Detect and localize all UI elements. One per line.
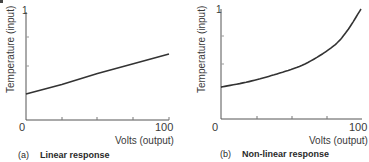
y-axis-label: Temperature (input) — [196, 6, 207, 93]
figure-caption: (a)Linear response — [18, 150, 110, 160]
y-top-label: 1 — [216, 4, 222, 15]
y-axis-label: Temperature (input) — [5, 6, 16, 93]
linear-response-line — [26, 54, 169, 94]
caption-tag: (a) — [18, 150, 40, 160]
caption-title: Linear response — [40, 150, 110, 160]
x-axis-label: Volts (output) — [115, 135, 174, 146]
x-max-label: 100 — [349, 121, 367, 133]
x-min-label: 0 — [19, 121, 25, 133]
chart-non-linear-response: 1 Temperature (input) 0 100 Volts (outpu… — [185, 0, 369, 162]
chart-linear-response: 1 Temperature (input) 0 100 Volts (outpu… — [0, 0, 185, 162]
caption-title: Non-linear response — [242, 149, 329, 159]
y-top-label: 1 — [22, 5, 28, 16]
x-axis-label: Volts (output) — [309, 135, 368, 146]
x-max-label: 100 — [155, 121, 173, 133]
x-min-label: 0 — [212, 121, 218, 133]
caption-tag: (b) — [220, 149, 242, 159]
figure-caption: (b)Non-linear response — [220, 149, 329, 159]
non-linear-response-curve — [221, 9, 361, 87]
